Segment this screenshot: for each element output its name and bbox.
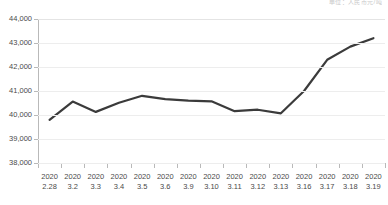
x-axis-tick [269,164,270,168]
x-axis-tick [292,164,293,168]
x-axis-tick [177,164,178,168]
series-line-path [50,38,374,120]
x-axis-tick [84,164,85,168]
chart-unit-note: 单位：人民币元/吨 [329,0,382,5]
y-axis-tick [34,19,38,20]
gridline [38,43,385,44]
y-axis-tick [34,67,38,68]
gridline [38,163,385,164]
x-axis-tick [339,164,340,168]
x-axis-tick [131,164,132,168]
gridline [38,19,385,20]
x-axis-tick [385,164,386,168]
x-axis-tick [246,164,247,168]
x-axis-tick [362,164,363,168]
y-axis-tick-label: 43,000 [0,39,32,47]
gridline [38,115,385,116]
y-axis-tick-label: 40,000 [0,111,32,119]
plot-area [38,19,385,163]
y-axis-tick [34,91,38,92]
x-axis-tick [107,164,108,168]
x-axis-tick [223,164,224,168]
y-axis-tick [34,43,38,44]
y-axis-tick-label: 44,000 [0,15,32,23]
y-axis-tick-label: 41,000 [0,87,32,95]
x-axis-tick [61,164,62,168]
y-axis-labels: 44,00043,00042,00041,00040,00039,00038,0… [0,0,32,205]
gridline [38,67,385,68]
y-axis-tick [34,139,38,140]
x-axis-tick [154,164,155,168]
x-axis-tick [316,164,317,168]
x-axis-tick [38,164,39,168]
x-axis-tick [200,164,201,168]
line-chart: 单位：人民币元/吨 44,00043,00042,00041,00040,000… [0,0,388,205]
x-axis-tick-label-year: 2020 [358,172,388,182]
gridline [38,91,385,92]
y-axis-tick-label: 42,000 [0,63,32,71]
y-axis-tick-label: 38,000 [0,159,32,167]
x-axis-tick-label: 20203.19 [358,172,388,192]
x-axis-tick-label-day: 3.19 [358,182,388,192]
gridline [38,139,385,140]
y-axis-tick [34,115,38,116]
y-axis-tick-label: 39,000 [0,135,32,143]
